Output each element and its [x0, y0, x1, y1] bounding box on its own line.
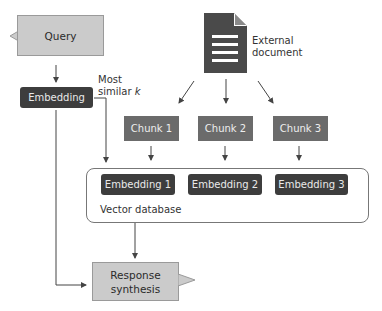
- external-line-1: External: [252, 35, 302, 47]
- query-node: Query: [10, 15, 104, 56]
- chunk-2: Chunk 2: [198, 116, 253, 141]
- response-line-2: synthesis: [111, 282, 160, 296]
- most-similar-line-2: similar k: [98, 86, 141, 98]
- most-similar-line-1: Most: [98, 74, 141, 86]
- embedding-2: Embedding 2: [188, 174, 262, 195]
- embedding-3: Embedding 3: [275, 174, 348, 195]
- query-embedding-node: Embedding: [20, 87, 93, 108]
- response-synthesis-box: Response synthesis: [92, 262, 179, 301]
- document-icon: [204, 13, 247, 73]
- chunk-1: Chunk 1: [124, 116, 179, 141]
- vector-database-label: Vector database: [100, 204, 181, 216]
- chunk-3: Chunk 3: [273, 116, 328, 141]
- response-synthesis-node: Response synthesis: [92, 262, 196, 301]
- external-line-2: document: [252, 47, 302, 59]
- embedding-1: Embedding 1: [101, 174, 175, 195]
- external-document-label: External document: [252, 35, 302, 59]
- speech-pointer-icon: [178, 274, 196, 286]
- query-label: Query: [17, 15, 104, 56]
- most-similar-k-label: Most similar k: [98, 74, 141, 98]
- response-line-1: Response: [110, 268, 160, 282]
